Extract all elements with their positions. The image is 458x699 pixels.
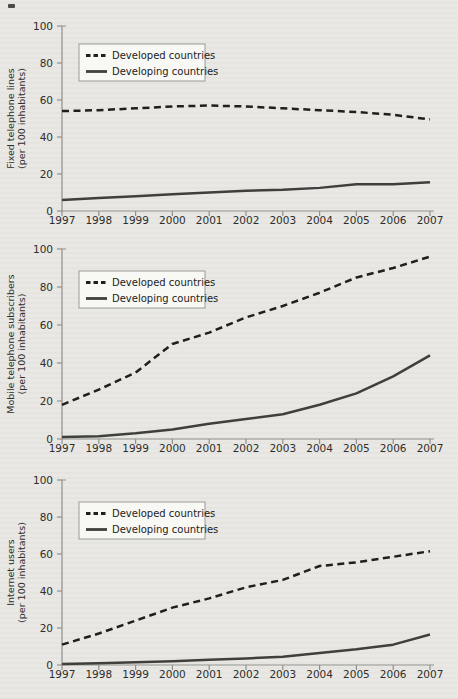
y-tick-label: 40 xyxy=(40,131,53,143)
y-tick-label: 80 xyxy=(40,281,53,293)
x-tick-label: 2002 xyxy=(233,442,260,454)
y-tick-label: 40 xyxy=(40,585,53,597)
y-tick-label: 20 xyxy=(40,168,53,180)
x-tick-label: 2003 xyxy=(269,442,296,454)
y-tick-label: 60 xyxy=(40,319,53,331)
x-tick-label: 2006 xyxy=(380,214,407,226)
y-tick-label: 80 xyxy=(40,57,53,69)
x-tick-label: 2007 xyxy=(417,668,444,680)
x-tick-label: 1997 xyxy=(49,442,76,454)
y-tick-label: 100 xyxy=(33,20,53,32)
series-line-developing-countries xyxy=(62,634,430,664)
x-tick-label: 2001 xyxy=(196,214,223,226)
x-tick-label: 2006 xyxy=(380,442,407,454)
legend-label: Developing countries xyxy=(112,66,218,77)
y-tick-label: 100 xyxy=(33,243,53,255)
legend-label: Developing countries xyxy=(112,524,218,535)
chart-canvas: 0204060801001997199819992000200120022003… xyxy=(0,0,458,233)
legend-label: Developing countries xyxy=(112,293,218,304)
x-tick-label: 2004 xyxy=(306,442,333,454)
x-tick-label: 2000 xyxy=(159,668,186,680)
x-tick-label: 2001 xyxy=(196,668,223,680)
legend-label: Developed countries xyxy=(112,277,215,288)
chart-canvas: 0204060801001997199819992000200120022003… xyxy=(0,233,458,466)
x-tick-label: 2004 xyxy=(306,668,333,680)
chart-canvas: 0204060801001997199819992000200120022003… xyxy=(0,466,458,699)
x-tick-label: 2007 xyxy=(417,214,444,226)
x-tick-label: 2002 xyxy=(233,668,260,680)
x-tick-label: 1997 xyxy=(49,668,76,680)
legend-label: Developed countries xyxy=(112,508,215,519)
series-line-developed-countries xyxy=(62,551,430,644)
series-line-developing-countries xyxy=(62,355,430,437)
x-tick-label: 2002 xyxy=(233,214,260,226)
x-tick-label: 2003 xyxy=(269,214,296,226)
x-tick-label: 2000 xyxy=(159,442,186,454)
x-tick-label: 1997 xyxy=(49,214,76,226)
chart-mobile-telephone-subscribers: 0204060801001997199819992000200120022003… xyxy=(0,233,458,466)
x-tick-label: 2001 xyxy=(196,442,223,454)
series-line-developed-countries xyxy=(62,106,430,120)
chart-internet-users: 0204060801001997199819992000200120022003… xyxy=(0,466,458,699)
chart-fixed-telephone-lines: 0204060801001997199819992000200120022003… xyxy=(0,0,458,233)
y-tick-label: 20 xyxy=(40,395,53,407)
x-tick-label: 1999 xyxy=(122,214,149,226)
scanned-chart-page: 0204060801001997199819992000200120022003… xyxy=(0,0,458,699)
x-tick-label: 1998 xyxy=(85,214,112,226)
y-tick-label: 60 xyxy=(40,548,53,560)
x-tick-label: 2006 xyxy=(380,668,407,680)
x-tick-label: 2005 xyxy=(343,668,370,680)
x-tick-label: 1998 xyxy=(85,668,112,680)
y-tick-label: 40 xyxy=(40,357,53,369)
x-tick-label: 2007 xyxy=(417,442,444,454)
x-tick-label: 1998 xyxy=(85,442,112,454)
x-tick-label: 2005 xyxy=(343,214,370,226)
y-axis-title: Internet users(per 100 inhabitants) xyxy=(5,522,27,623)
y-tick-label: 20 xyxy=(40,622,53,634)
y-tick-label: 100 xyxy=(33,474,53,486)
x-tick-label: 1999 xyxy=(122,442,149,454)
x-tick-label: 2003 xyxy=(269,668,296,680)
x-tick-label: 2000 xyxy=(159,214,186,226)
y-tick-label: 60 xyxy=(40,94,53,106)
series-line-developing-countries xyxy=(62,182,430,200)
legend-label: Developed countries xyxy=(112,50,215,61)
x-tick-label: 2005 xyxy=(343,442,370,454)
y-tick-label: 80 xyxy=(40,511,53,523)
x-tick-label: 2004 xyxy=(306,214,333,226)
y-axis-title: Fixed telephone lines(per 100 inhabitant… xyxy=(5,68,27,169)
y-axis-title: Mobile telephone subscribers(per 100 inh… xyxy=(5,274,27,413)
x-tick-label: 1999 xyxy=(122,668,149,680)
